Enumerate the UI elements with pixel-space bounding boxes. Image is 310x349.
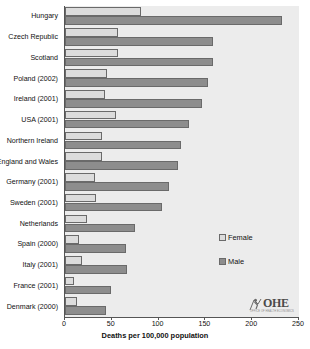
- bar-group: [65, 172, 299, 193]
- category-label: Sweden (2001): [0, 199, 58, 207]
- x-tick-label: 0: [62, 320, 66, 328]
- bar-group: [65, 213, 299, 234]
- legend-item-male: Male: [219, 257, 253, 266]
- bar-male: [65, 286, 111, 295]
- bar-male: [65, 37, 213, 46]
- category-label: France (2001): [0, 282, 58, 290]
- bar-male: [65, 99, 202, 108]
- ohe-figure-icon: [249, 297, 263, 311]
- category-label: Spain (2000): [0, 240, 58, 248]
- bar-male: [65, 306, 106, 315]
- bar-female: [65, 49, 118, 58]
- bar-group: [65, 255, 299, 276]
- bar-male: [65, 16, 282, 25]
- bar-male: [65, 58, 213, 67]
- bar-female: [65, 194, 96, 203]
- category-label: USA (2001): [0, 116, 58, 124]
- ohe-logo-text: OHE: [263, 296, 289, 311]
- bar-male: [65, 161, 178, 170]
- bar-group: [65, 27, 299, 48]
- bar-female: [65, 69, 107, 78]
- bar-female: [65, 90, 105, 99]
- bar-male: [65, 244, 126, 253]
- category-label: Ireland (2001): [0, 95, 58, 103]
- x-tick-label: 100: [152, 320, 164, 328]
- bar-female: [65, 28, 118, 37]
- bar-male: [65, 265, 127, 274]
- bar-group: [65, 68, 299, 89]
- bar-female: [65, 215, 87, 224]
- bar-group: [65, 110, 299, 131]
- x-tick-label: 150: [198, 320, 210, 328]
- chart-container: HungaryCzech RepublicScotlandPoland (200…: [0, 0, 310, 349]
- category-label: Denmark (2000): [0, 303, 58, 311]
- bar-female: [65, 132, 102, 141]
- bar-male: [65, 182, 169, 191]
- category-label: Hungary: [0, 12, 58, 20]
- category-label: Germany (2001): [0, 178, 58, 186]
- category-label: Czech Republic: [0, 33, 58, 41]
- x-tick-label: 200: [245, 320, 257, 328]
- category-label: Poland (2002): [0, 75, 58, 83]
- bar-male: [65, 141, 181, 150]
- ohe-logo: OHE OFFICE OF HEALTH ECONOMICS: [249, 296, 307, 318]
- bar-male: [65, 203, 162, 212]
- legend-item-female: Female: [219, 233, 253, 242]
- bar-female: [65, 173, 95, 182]
- bar-male: [65, 78, 208, 87]
- bar-female: [65, 152, 102, 161]
- bar-group: [65, 151, 299, 172]
- x-tick-label: 50: [107, 320, 115, 328]
- category-label: Italy (2001): [0, 261, 58, 269]
- category-label: Scotland: [0, 54, 58, 62]
- bar-male: [65, 224, 135, 233]
- bar-group: [65, 193, 299, 214]
- bar-female: [65, 297, 77, 306]
- bar-group: [65, 6, 299, 27]
- bar-group: [65, 234, 299, 255]
- bar-female: [65, 235, 79, 244]
- bar-female: [65, 277, 74, 286]
- legend-swatch-male-icon: [219, 258, 226, 265]
- x-axis-title: Deaths per 100,000 population: [0, 331, 310, 340]
- bar-group: [65, 130, 299, 151]
- legend-label-female: Female: [228, 233, 253, 242]
- ohe-logo-subtitle: OFFICE OF HEALTH ECONOMICS: [250, 310, 294, 313]
- category-label: England and Wales: [0, 158, 58, 166]
- category-label: Northern Ireland: [0, 137, 58, 145]
- chart-legend: Female Male: [219, 233, 253, 281]
- bar-group: [65, 276, 299, 297]
- bar-female: [65, 256, 82, 265]
- legend-label-male: Male: [228, 257, 244, 266]
- bar-male: [65, 120, 189, 129]
- x-tick-label: 250: [292, 320, 304, 328]
- plot-area: [64, 6, 299, 317]
- legend-swatch-female-icon: [219, 234, 226, 241]
- bar-female: [65, 7, 141, 16]
- category-axis-labels: HungaryCzech RepublicScotlandPoland (200…: [0, 6, 62, 317]
- bar-female: [65, 111, 116, 120]
- bar-group: [65, 47, 299, 68]
- bar-group: [65, 89, 299, 110]
- category-label: Netherlands: [0, 220, 58, 228]
